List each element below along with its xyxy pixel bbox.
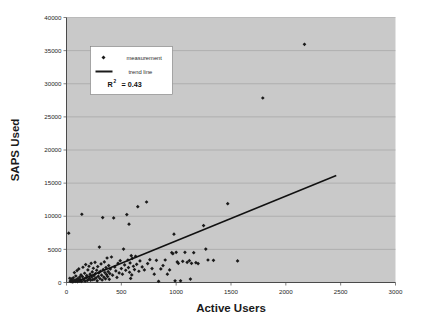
y-axis-tick-label: 40000 xyxy=(44,14,62,21)
y-axis-tick-label: 30000 xyxy=(44,80,62,87)
x-axis-tick-label: 0 xyxy=(65,288,69,295)
x-axis-tick-label: 1000 xyxy=(169,288,183,295)
y-axis: 0500010000150002000025000300003500040000 xyxy=(44,14,66,286)
x-axis-tick-label: 1500 xyxy=(224,288,238,295)
y-axis-tick-label: 35000 xyxy=(44,47,62,54)
legend-label-trend-line: trend line xyxy=(129,69,153,75)
legend: measurementtrend lineR2= 0.43 xyxy=(91,47,173,95)
r-squared-value: = 0.43 xyxy=(122,80,142,89)
x-axis-tick-label: 3000 xyxy=(389,288,403,295)
x-axis-title: Active Users xyxy=(196,302,266,314)
y-axis-tick-label: 20000 xyxy=(44,146,62,153)
y-axis-tick-label: 0 xyxy=(58,279,62,286)
y-axis-tick-label: 10000 xyxy=(44,212,62,219)
scatter-chart: 0500010000150002000025000300003500040000… xyxy=(0,0,421,324)
x-axis-tick-label: 2500 xyxy=(334,288,348,295)
y-axis-tick-label: 25000 xyxy=(44,113,62,120)
y-axis-title: SAPS Used xyxy=(9,119,21,182)
legend-label-measurement: measurement xyxy=(127,55,163,61)
x-axis-tick-label: 500 xyxy=(116,288,127,295)
y-axis-tick-label: 15000 xyxy=(44,179,62,186)
x-axis: 050010001500200025003000 xyxy=(65,283,403,295)
y-axis-tick-label: 5000 xyxy=(48,246,62,253)
chart-canvas: 0500010000150002000025000300003500040000… xyxy=(0,0,421,324)
x-axis-tick-label: 2000 xyxy=(279,288,293,295)
r-squared-exponent: 2 xyxy=(114,79,117,84)
